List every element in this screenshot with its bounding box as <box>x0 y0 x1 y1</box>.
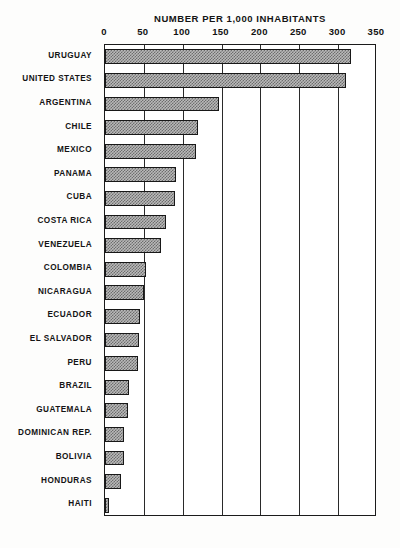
bar-row <box>105 380 375 395</box>
category-label: BRAZIL <box>59 381 92 390</box>
bar <box>105 191 175 206</box>
bar <box>105 498 109 513</box>
bar <box>105 474 121 489</box>
bar <box>105 120 198 135</box>
bar-row <box>105 474 375 489</box>
bar <box>105 144 196 159</box>
x-tick-label: 50 <box>137 26 148 37</box>
x-tick-label: 200 <box>251 26 268 37</box>
bar <box>105 451 124 466</box>
x-tick-label: 100 <box>173 26 190 37</box>
category-label: COSTA RICA <box>37 216 92 225</box>
bar-row <box>105 144 375 159</box>
bar <box>105 215 166 230</box>
bar-chart: NUMBER PER 1,000 INHABITANTS 05010015020… <box>0 0 400 548</box>
category-label: MEXICO <box>57 145 92 154</box>
category-label: COLOMBIA <box>44 263 92 272</box>
category-label: CUBA <box>67 192 92 201</box>
bar-row <box>105 262 375 277</box>
bar-row <box>105 285 375 300</box>
category-label: BOLIVIA <box>56 452 92 461</box>
bar-row <box>105 427 375 442</box>
bar-rows <box>105 45 375 515</box>
category-label: PERU <box>67 358 92 367</box>
bar <box>105 49 351 64</box>
x-axis-tick-labels: 050100150200250300350 <box>0 26 400 40</box>
bar-row <box>105 215 375 230</box>
y-axis-category-labels: URUGUAYUNITED STATESARGENTINACHILEMEXICO… <box>0 44 96 516</box>
bar <box>105 380 129 395</box>
bar <box>105 403 128 418</box>
bar <box>105 356 138 371</box>
category-label: ARGENTINA <box>39 98 92 107</box>
bar <box>105 309 140 324</box>
category-label: CHILE <box>65 122 92 131</box>
bar-row <box>105 97 375 112</box>
x-tick-label: 150 <box>212 26 229 37</box>
bar-row <box>105 120 375 135</box>
bar-row <box>105 356 375 371</box>
bar-row <box>105 238 375 253</box>
bar-row <box>105 49 375 64</box>
bar-row <box>105 451 375 466</box>
bar <box>105 238 161 253</box>
bar-row <box>105 309 375 324</box>
bar-row <box>105 167 375 182</box>
category-label: DOMINICAN REP. <box>18 428 92 437</box>
bar <box>105 285 144 300</box>
category-label: VENEZUELA <box>38 240 92 249</box>
category-label: NICARAGUA <box>38 287 92 296</box>
bar-row <box>105 498 375 513</box>
plot-area <box>104 44 376 516</box>
bar <box>105 262 146 277</box>
category-label: UNITED STATES <box>22 74 92 83</box>
category-label: URUGUAY <box>48 51 92 60</box>
x-tick-label: 350 <box>368 26 385 37</box>
category-label: GUATEMALA <box>36 405 92 414</box>
x-tick-label: 0 <box>101 26 107 37</box>
bar <box>105 97 219 112</box>
category-label: HAITI <box>68 499 92 508</box>
category-label: ECUADOR <box>47 310 92 319</box>
bar-row <box>105 333 375 348</box>
x-tick-label: 250 <box>290 26 307 37</box>
category-label: EL SALVADOR <box>30 334 92 343</box>
bar <box>105 167 176 182</box>
bar <box>105 333 139 348</box>
bar <box>105 427 124 442</box>
chart-title: NUMBER PER 1,000 INHABITANTS <box>104 13 376 24</box>
bar-row <box>105 191 375 206</box>
x-tick-label: 300 <box>329 26 346 37</box>
category-label: PANAMA <box>54 169 92 178</box>
bar-row <box>105 73 375 88</box>
bar <box>105 73 346 88</box>
category-label: HONDURAS <box>41 476 92 485</box>
bar-row <box>105 403 375 418</box>
